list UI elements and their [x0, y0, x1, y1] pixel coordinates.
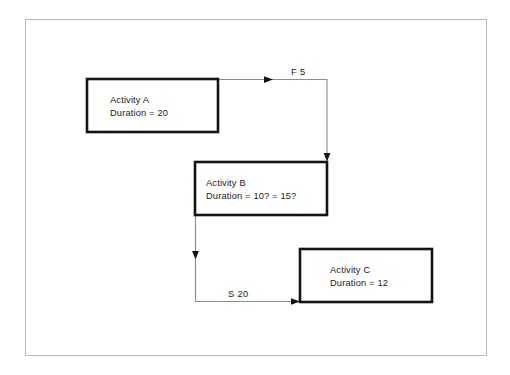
activity-b-duration: Duration = 10? = 15?: [206, 191, 296, 201]
arrowhead-down-icon: [192, 251, 199, 260]
activity-c-duration: Duration = 12: [330, 278, 388, 288]
connector-s20: S 20: [192, 215, 300, 305]
arrowhead-down-icon: [324, 153, 331, 162]
activity-c-border[interactable]: [300, 249, 432, 302]
activity-b-border[interactable]: [195, 162, 327, 215]
connector-f5: F 5: [218, 67, 330, 162]
lag-label-s20: S 20: [228, 289, 249, 299]
activity-box-c[interactable]: Activity C Duration = 12: [300, 249, 432, 302]
diagram-page: F 5 S 20 Activity A Duration = 20 Activi…: [0, 0, 510, 375]
arrowhead-right-icon: [291, 298, 300, 305]
activity-c-name: Activity C: [330, 265, 370, 275]
activity-a-name: Activity A: [110, 95, 150, 105]
activity-b-name: Activity B: [206, 178, 246, 188]
activity-box-a[interactable]: Activity A Duration = 20: [87, 79, 218, 132]
diagram-canvas: F 5 S 20 Activity A Duration = 20 Activi…: [0, 0, 510, 375]
activity-box-b[interactable]: Activity B Duration = 10? = 15?: [195, 162, 327, 215]
lag-label-f5: F 5: [291, 67, 305, 77]
activity-a-border[interactable]: [87, 79, 218, 132]
connector-f5-path: [218, 80, 327, 161]
activity-a-duration: Duration = 20: [110, 108, 168, 118]
arrowhead-right-icon: [264, 76, 273, 83]
